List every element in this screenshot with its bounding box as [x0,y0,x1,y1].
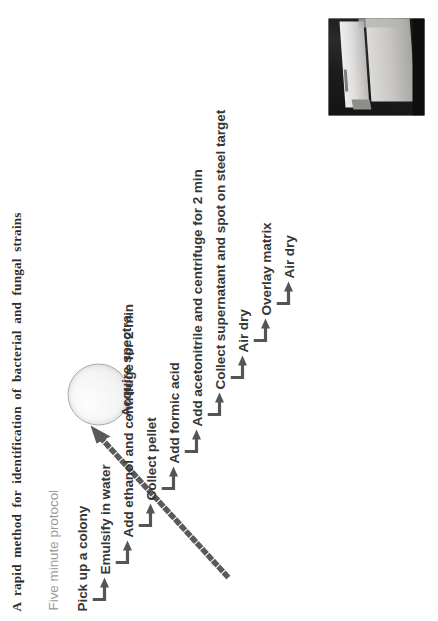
step-label-8: Air dry [235,309,250,352]
flow-arrow-4 [161,465,179,491]
flow-arrow-2 [115,539,133,565]
steel-target-photo [328,18,424,115]
step-label-7: Collect supernatant and spot on steel ta… [212,109,227,389]
step-label-5: Add formic acid [166,362,181,463]
step-label-2: Emulsify in water [97,464,112,574]
figure-canvas: A rapid method for identification of bac… [0,0,438,621]
flow-arrow-5 [184,428,202,454]
flow-arrow-1 [92,576,110,602]
flow-arrow-9 [276,280,294,306]
photo-shadow-bottom [412,18,424,115]
photo-right-highlight [358,18,398,27]
flow-arrow-8 [253,317,271,343]
flow-arrow-6 [207,391,225,417]
figure-subtitle: Five minute protocol [45,489,60,610]
step-label-4: Collect pellet [143,417,158,500]
flow-arrow-3 [138,502,156,528]
figure-page: A rapid method for identification of bac… [0,0,438,621]
step-label-1: Pick up a colony [74,505,89,611]
photo-plate-edge [351,99,371,109]
final-step-label: Acquire spectra [118,315,133,416]
figure-title: A rapid method for identification of bac… [8,212,24,611]
photo-plate-lower [365,18,415,101]
step-label-6: Add acetonitrile and centrifuge for 2 mi… [189,169,204,426]
step-label-9: Overlay matrix [258,222,273,315]
step-label-10: Air dry [281,235,296,278]
flow-arrow-7 [230,354,248,380]
